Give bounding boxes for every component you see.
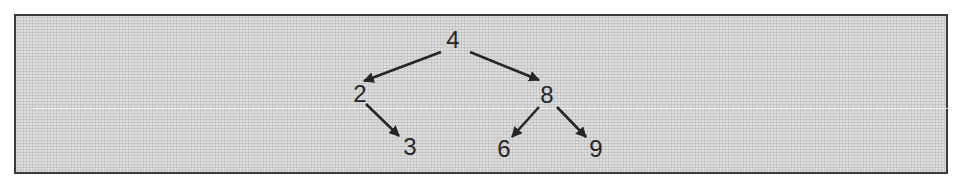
tree-node-4: 4 xyxy=(446,28,459,52)
tree-node-2: 2 xyxy=(353,82,366,106)
tree-node-6: 6 xyxy=(497,137,510,161)
tree-node-8: 8 xyxy=(540,83,553,107)
tree-node-9: 9 xyxy=(589,137,602,161)
scan-artifact-line xyxy=(32,108,962,109)
scanned-page: 428369 xyxy=(0,0,965,181)
tree-node-3: 3 xyxy=(403,135,416,159)
tree-figure-frame xyxy=(14,14,948,174)
